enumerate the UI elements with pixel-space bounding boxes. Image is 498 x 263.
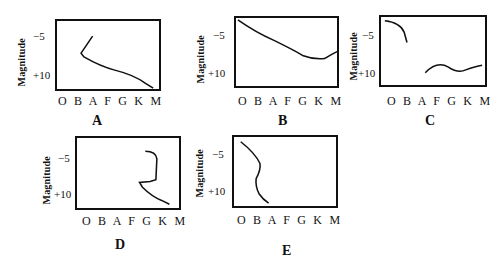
hr-curve xyxy=(81,36,153,88)
panel-label: B xyxy=(278,113,287,129)
panel-label: E xyxy=(282,243,291,259)
hr-curve xyxy=(241,142,269,203)
y-tick-plus10: +10 xyxy=(208,67,225,79)
plot-area xyxy=(55,19,161,91)
plot-area xyxy=(234,16,339,88)
plot-area xyxy=(232,135,338,208)
hr-curve xyxy=(238,20,338,59)
panel-label: A xyxy=(92,113,102,129)
y-tick-minus5: −5 xyxy=(33,30,45,42)
y-tick-minus5: −5 xyxy=(212,148,224,160)
y-tick-minus5: −5 xyxy=(362,29,374,41)
x-axis-ticks: O B A F G K M xyxy=(82,214,187,229)
x-axis-ticks: O B A F G K M xyxy=(58,94,163,109)
y-axis-label: Magnitude xyxy=(41,155,52,205)
y-tick-minus5: −5 xyxy=(58,152,70,164)
y-axis-label: Magnitude xyxy=(194,148,205,198)
y-axis-label: Magnitude xyxy=(195,34,206,84)
plot-area xyxy=(75,136,181,210)
y-tick-plus10: +10 xyxy=(208,185,225,197)
hr-curve xyxy=(385,21,482,73)
y-tick-minus5: −5 xyxy=(213,29,225,41)
y-tick-plus10: +10 xyxy=(54,188,71,200)
y-axis-label: Magnitude xyxy=(348,31,359,81)
y-tick-plus10: +10 xyxy=(358,67,375,79)
x-axis-ticks: O B A F G K M xyxy=(387,94,492,109)
y-tick-plus10: +10 xyxy=(33,69,50,81)
panel-label: C xyxy=(425,113,435,129)
x-axis-ticks: O B A F G K M xyxy=(237,213,342,228)
y-axis-label: Magnitude xyxy=(16,37,27,87)
x-axis-ticks: O B A F G K M xyxy=(238,94,343,109)
hr-curve xyxy=(140,151,170,204)
panel-label: D xyxy=(115,237,125,253)
plot-area xyxy=(379,15,487,87)
